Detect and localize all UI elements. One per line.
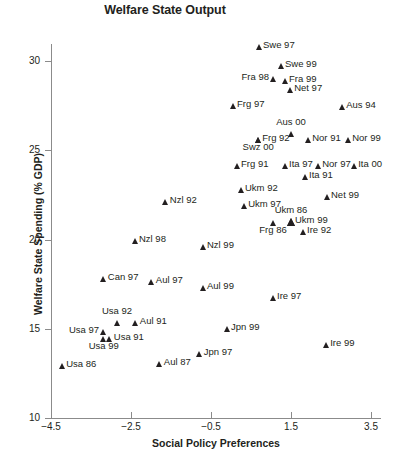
triangle-marker-icon	[148, 279, 154, 285]
triangle-marker-icon	[132, 320, 138, 326]
triangle-marker-icon	[100, 276, 106, 282]
data-point-label: Net 99	[331, 190, 359, 200]
triangle-marker-icon	[241, 203, 247, 209]
data-point-label: Frg 91	[241, 159, 268, 169]
x-tick	[291, 412, 292, 418]
triangle-marker-icon	[270, 295, 276, 301]
triangle-marker-icon	[278, 63, 284, 69]
triangle-marker-icon	[238, 187, 244, 193]
triangle-marker-icon	[305, 137, 311, 143]
y-tick	[45, 418, 51, 419]
y-tick	[45, 61, 51, 62]
data-point-label: Nor 91	[312, 133, 341, 143]
triangle-marker-icon	[224, 326, 230, 332]
x-tick-label: 1.5	[271, 421, 311, 432]
data-point-label: Usa 92	[102, 306, 132, 316]
y-tick-label: 30	[10, 55, 40, 66]
data-point-label: Aul 99	[207, 281, 234, 291]
data-point-label: Ukm 92	[245, 183, 278, 193]
triangle-marker-icon	[339, 104, 345, 110]
data-point-label: Aul 97	[156, 275, 183, 285]
triangle-marker-icon	[282, 163, 288, 169]
triangle-marker-icon	[162, 199, 168, 205]
triangle-marker-icon	[132, 238, 138, 244]
y-tick	[45, 150, 51, 151]
data-point-label: Ire 99	[330, 338, 354, 348]
welfare-state-output-chart: Welfare State Output 1015202530 −4.5−2.5…	[0, 0, 401, 464]
x-tick	[131, 412, 132, 418]
triangle-marker-icon	[230, 103, 236, 109]
y-axis-title: Welfare State Spending (% GDP)	[32, 104, 44, 364]
triangle-marker-icon	[114, 320, 120, 326]
data-point-label: Ire 97	[277, 291, 301, 301]
data-point-label: Swe 99	[285, 59, 317, 69]
data-point-label: Can 97	[108, 272, 139, 282]
triangle-marker-icon	[287, 87, 293, 93]
triangle-marker-icon	[234, 163, 240, 169]
triangle-marker-icon	[324, 194, 330, 200]
x-axis-title: Social Policy Preferences	[51, 437, 381, 449]
data-point-label: Frg 97	[237, 99, 264, 109]
data-point-label: Nzl 98	[139, 234, 166, 244]
triangle-marker-icon	[270, 76, 276, 82]
triangle-marker-icon	[302, 174, 308, 180]
x-tick	[371, 412, 372, 418]
data-point-label: Ita 00	[358, 159, 382, 169]
data-point-label: Nor 97	[322, 159, 351, 169]
x-tick	[211, 412, 212, 418]
triangle-marker-icon	[345, 137, 351, 143]
data-point-label: Jpn 99	[231, 322, 260, 332]
data-point-label: Nor 99	[352, 133, 381, 143]
data-point-label: Nzl 99	[207, 240, 234, 250]
y-tick	[45, 329, 51, 330]
triangle-marker-icon	[300, 229, 306, 235]
data-point-label: Net 97	[294, 83, 322, 93]
triangle-marker-icon	[196, 351, 202, 357]
y-axis-line	[51, 44, 52, 418]
data-point-label: Ita 91	[309, 170, 333, 180]
x-tick-label: −4.5	[31, 421, 71, 432]
y-tick	[45, 240, 51, 241]
triangle-marker-icon	[59, 363, 65, 369]
triangle-marker-icon	[200, 244, 206, 250]
data-point-label: Nzl 92	[170, 195, 197, 205]
data-point-label: Aus 94	[346, 100, 376, 110]
triangle-marker-icon	[351, 163, 357, 169]
data-point-label: Aul 87	[164, 357, 191, 367]
data-point-label: Ire 92	[307, 225, 331, 235]
triangle-marker-icon	[200, 285, 206, 291]
data-point-label: Ukm 99	[295, 215, 328, 225]
x-tick-label: −2.5	[111, 421, 151, 432]
data-point-label: Fra 98	[242, 72, 269, 82]
chart-title: Welfare State Output	[0, 3, 330, 17]
data-point-label: Usa 99	[89, 341, 119, 351]
data-point-label: Usa 97	[69, 325, 99, 335]
data-point-label: Swz 00	[243, 142, 274, 152]
data-point-label: Swe 97	[263, 40, 295, 50]
triangle-marker-icon	[282, 78, 288, 84]
triangle-marker-icon	[100, 329, 106, 335]
triangle-marker-icon	[256, 44, 262, 50]
data-point-label: Jpn 97	[204, 347, 233, 357]
x-axis-line	[51, 418, 381, 419]
triangle-marker-icon	[323, 342, 329, 348]
triangle-marker-icon	[156, 361, 162, 367]
data-point-label: Usa 86	[66, 359, 96, 369]
data-point-label: Frg 86	[259, 225, 286, 235]
data-point-label: Aus 00	[276, 117, 306, 127]
triangle-marker-icon	[287, 218, 295, 226]
x-tick	[51, 412, 52, 418]
x-tick-label: 3.5	[351, 421, 391, 432]
data-point-label: Ita 97	[289, 159, 313, 169]
x-tick-label: −0.5	[191, 421, 231, 432]
data-point-label: Aul 91	[140, 316, 167, 326]
